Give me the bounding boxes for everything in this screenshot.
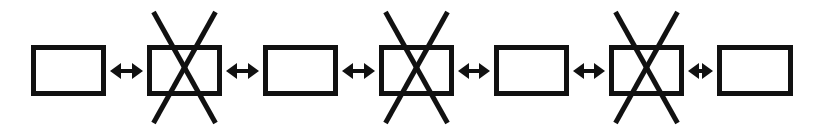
node-rectangle bbox=[266, 48, 336, 94]
connector-4 bbox=[458, 63, 490, 79]
arrow-head-left-icon bbox=[226, 63, 237, 79]
crossed-box-node bbox=[382, 12, 452, 123]
arrow-head-right-icon bbox=[594, 63, 605, 79]
crossed-box-node bbox=[150, 12, 220, 123]
arrow-head-right-icon bbox=[364, 63, 375, 79]
arrow-head-right-icon bbox=[248, 63, 259, 79]
arrow-head-left-icon bbox=[342, 63, 353, 79]
arrow-head-left-icon bbox=[458, 63, 469, 79]
node-rectangle bbox=[497, 48, 567, 94]
connector-1 bbox=[110, 63, 143, 79]
connector-5 bbox=[573, 63, 605, 79]
diagram-canvas bbox=[0, 0, 825, 135]
node-rectangle bbox=[720, 48, 791, 94]
arrow-head-left-icon bbox=[573, 63, 584, 79]
arrow-head-right-icon bbox=[132, 63, 143, 79]
connector-2 bbox=[226, 63, 259, 79]
arrow-head-left-icon bbox=[688, 63, 699, 79]
plain-box-node bbox=[34, 48, 104, 94]
diagram-svg bbox=[0, 0, 825, 135]
plain-box-node bbox=[266, 48, 336, 94]
connector-3 bbox=[342, 63, 375, 79]
connector-6 bbox=[688, 63, 713, 79]
node-rectangle bbox=[34, 48, 104, 94]
plain-box-node bbox=[497, 48, 567, 94]
plain-box-node bbox=[720, 48, 791, 94]
nodes-layer bbox=[34, 12, 791, 123]
arrow-head-right-icon bbox=[702, 63, 713, 79]
arrow-head-left-icon bbox=[110, 63, 121, 79]
crossed-box-node bbox=[612, 12, 682, 123]
arrow-head-right-icon bbox=[479, 63, 490, 79]
